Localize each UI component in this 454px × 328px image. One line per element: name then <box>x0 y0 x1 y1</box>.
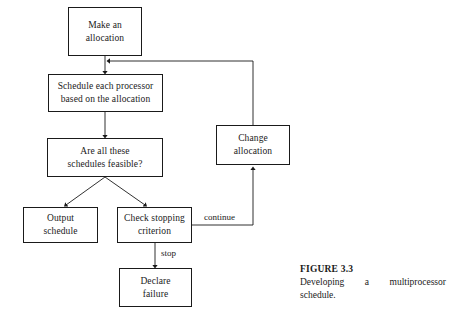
figure-caption-title: FIGURE 3.3 <box>300 264 353 274</box>
figure-caption: FIGURE 3.3 Developing a multiprocessor s… <box>300 263 446 301</box>
node-output-schedule[interactable]: Output schedule <box>23 207 98 243</box>
node-check-stopping-criterion[interactable]: Check stopping criterion <box>117 207 192 243</box>
figure-caption-text: Developing a multiprocessor schedule. <box>300 276 446 302</box>
node-label: Check stopping criterion <box>121 212 188 237</box>
node-label: Make an allocation <box>83 19 127 44</box>
node-label: Declare failure <box>137 275 173 300</box>
edge-label-stop: stop <box>160 249 177 258</box>
edge-label-continue: continue <box>203 213 236 222</box>
node-declare-failure[interactable]: Declare failure <box>119 268 192 307</box>
node-label: Change allocation <box>231 132 275 157</box>
node-label: Schedule each processor based on the all… <box>55 80 157 105</box>
node-label: Are all these schedules feasible? <box>65 145 146 170</box>
edge-feasible-to-output <box>66 177 105 205</box>
node-make-allocation[interactable]: Make an allocation <box>68 7 142 56</box>
flowchart-figure: Make an allocation Schedule each process… <box>0 0 454 328</box>
node-change-allocation[interactable]: Change allocation <box>216 125 290 165</box>
node-label: Output schedule <box>40 212 80 237</box>
node-schedule-each-processor[interactable]: Schedule each processor based on the all… <box>48 74 163 112</box>
edge-feasible-to-check <box>105 177 145 205</box>
node-are-schedules-feasible[interactable]: Are all these schedules feasible? <box>47 138 163 177</box>
